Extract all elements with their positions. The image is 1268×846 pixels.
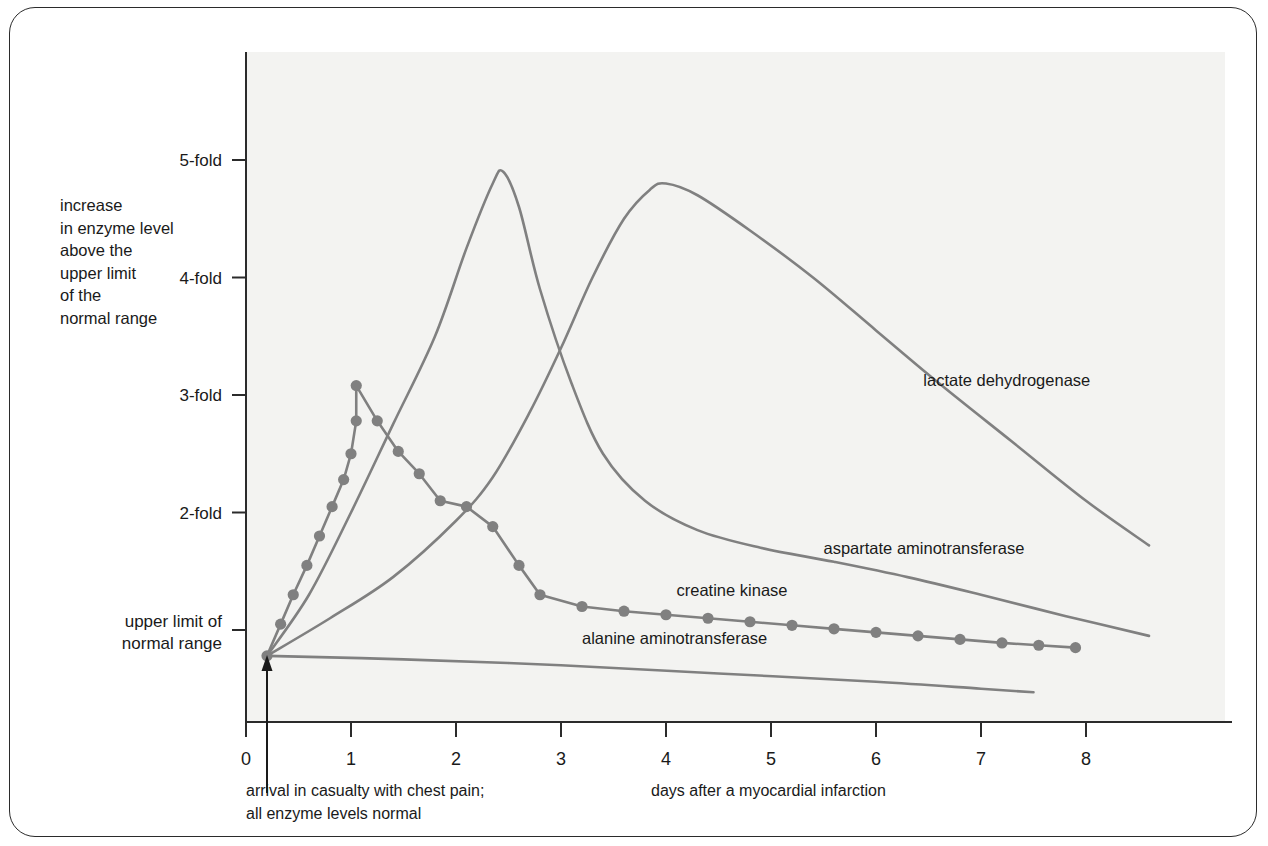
x-tick-label-7: 7 — [976, 749, 986, 769]
curve-label-creatine-kinase: creatine kinase — [677, 581, 788, 599]
data-point-creatine-kinase-14 — [461, 501, 472, 512]
data-point-creatine-kinase-15 — [487, 521, 498, 532]
data-point-creatine-kinase-10 — [372, 415, 383, 426]
y-tick-label-1-line2: normal range — [122, 634, 222, 653]
figure-container: upper limit ofnormal range2-fold3-fold4-… — [0, 0, 1268, 846]
data-point-creatine-kinase-21 — [702, 613, 713, 624]
x-ticks-layer: 012345678 — [241, 722, 1091, 769]
data-point-creatine-kinase-17 — [534, 589, 545, 600]
y-axis-label-line-0: increase — [60, 196, 122, 214]
data-point-creatine-kinase-20 — [660, 609, 671, 620]
y-axis-label-line-4: of the — [60, 286, 101, 304]
x-tick-label-5: 5 — [766, 749, 776, 769]
x-tick-label-4: 4 — [661, 749, 671, 769]
y-axis-label: increasein enzyme levelabove theupper li… — [60, 196, 174, 327]
data-point-creatine-kinase-3 — [301, 560, 312, 571]
y-axis-label-line-3: upper limit — [60, 264, 137, 282]
y-tick-label-2: 2-fold — [179, 504, 222, 523]
data-point-creatine-kinase-8 — [351, 415, 362, 426]
data-point-creatine-kinase-22 — [744, 616, 755, 627]
data-point-creatine-kinase-7 — [345, 448, 356, 459]
data-point-creatine-kinase-18 — [576, 601, 587, 612]
x-axis-caption: days after a myocardial infarction — [651, 782, 886, 799]
x-tick-label-2: 2 — [451, 749, 461, 769]
arrival-annotation-line2: all enzyme levels normal — [246, 805, 421, 822]
data-point-creatine-kinase-23 — [786, 620, 797, 631]
data-point-creatine-kinase-9 — [351, 380, 362, 391]
x-tick-label-1: 1 — [346, 749, 356, 769]
data-point-creatine-kinase-1 — [275, 619, 286, 630]
data-point-creatine-kinase-19 — [618, 606, 629, 617]
data-point-creatine-kinase-5 — [327, 501, 338, 512]
data-point-creatine-kinase-30 — [1070, 642, 1081, 653]
x-tick-label-0: 0 — [241, 749, 251, 769]
curve-label-aspartate-aminotransferase: aspartate aminotransferase — [824, 539, 1025, 557]
y-tick-label-4: 4-fold — [179, 269, 222, 288]
data-point-creatine-kinase-12 — [414, 468, 425, 479]
data-point-creatine-kinase-4 — [314, 530, 325, 541]
data-point-creatine-kinase-16 — [513, 560, 524, 571]
data-point-creatine-kinase-2 — [288, 589, 299, 600]
data-point-creatine-kinase-26 — [912, 630, 923, 641]
data-point-creatine-kinase-25 — [870, 627, 881, 638]
data-point-creatine-kinase-6 — [338, 474, 349, 485]
y-tick-label-1-line1: upper limit of — [125, 612, 223, 631]
y-axis-label-line-2: above the — [60, 241, 132, 259]
curve-label-alanine-aminotransferase: alanine aminotransferase — [582, 629, 767, 647]
data-point-creatine-kinase-24 — [828, 623, 839, 634]
curve-label-lactate-dehydrogenase: lactate dehydrogenase — [923, 371, 1090, 389]
x-tick-label-6: 6 — [871, 749, 881, 769]
y-axis-label-line-1: in enzyme level — [60, 219, 174, 237]
x-tick-label-3: 3 — [556, 749, 566, 769]
x-tick-label-8: 8 — [1081, 749, 1091, 769]
data-point-creatine-kinase-13 — [435, 495, 446, 506]
data-point-creatine-kinase-11 — [393, 446, 404, 457]
arrival-annotation-line1: arrival in casualty with chest pain; — [246, 782, 484, 799]
data-point-creatine-kinase-29 — [1033, 640, 1044, 651]
y-tick-label-5: 5-fold — [179, 151, 222, 170]
data-point-creatine-kinase-27 — [954, 634, 965, 645]
enzyme-levels-chart: upper limit ofnormal range2-fold3-fold4-… — [0, 0, 1268, 846]
annotation-arrival: arrival in casualty with chest pain; all… — [246, 782, 484, 822]
y-tick-label-3: 3-fold — [179, 386, 222, 405]
data-point-creatine-kinase-28 — [996, 637, 1007, 648]
y-axis-label-line-5: normal range — [60, 309, 157, 327]
